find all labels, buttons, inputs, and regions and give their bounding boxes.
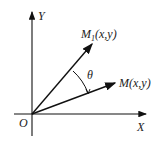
angle-arc [73,71,88,93]
m-label: M(x,y) [118,76,151,90]
y-axis-label: Y [38,9,46,23]
rotation-diagram: Y X O θ M1(x,y) M(x,y) [0,0,161,141]
angle-label: θ [87,68,93,82]
origin-label: O [19,116,28,130]
m1-label: M1(x,y) [80,27,117,43]
x-axis-label: X [136,120,145,134]
